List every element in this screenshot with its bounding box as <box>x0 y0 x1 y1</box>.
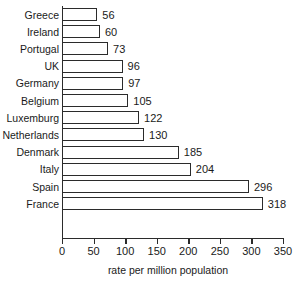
bar-chart: Greece 56 Ireland 60 Portugal 73 UK 96 G… <box>0 0 300 287</box>
bar-row: Italy 204 <box>0 163 300 176</box>
value-label: 96 <box>128 60 140 72</box>
category-label: Portugal <box>20 43 59 55</box>
bar <box>62 197 263 210</box>
bar <box>62 163 191 176</box>
bar-row: Portugal 73 <box>0 42 300 55</box>
bar <box>62 180 249 193</box>
value-label: 130 <box>149 129 167 141</box>
bar <box>62 42 108 55</box>
bar <box>62 94 128 107</box>
bar <box>62 146 179 159</box>
value-label: 73 <box>113 43 125 55</box>
category-label: Italy <box>40 163 59 175</box>
value-label: 318 <box>268 198 286 210</box>
x-axis-tick <box>157 239 158 244</box>
category-label: Greece <box>25 9 59 21</box>
x-axis-tick-label: 50 <box>87 245 99 258</box>
category-label: Spain <box>32 181 59 193</box>
value-label: 60 <box>105 26 117 38</box>
bar-row: Denmark 185 <box>0 146 300 159</box>
bar-row: Ireland 60 <box>0 25 300 38</box>
x-axis-tick <box>220 239 221 244</box>
bar-row: UK 96 <box>0 60 300 73</box>
x-axis-tick-label: 350 <box>274 245 292 258</box>
value-label: 56 <box>102 9 114 21</box>
bar-row: Germany 97 <box>0 77 300 90</box>
value-label: 97 <box>128 77 140 89</box>
x-axis-tick <box>94 239 95 244</box>
category-label: Denmark <box>16 146 59 158</box>
bar-row: Netherlands 130 <box>0 128 300 141</box>
bar-row: Belgium 105 <box>0 94 300 107</box>
bar-row: Luxemburg 122 <box>0 111 300 124</box>
x-axis-title: rate per million population <box>0 264 300 277</box>
category-label: Germany <box>16 77 59 89</box>
bar-row: Greece 56 <box>0 8 300 21</box>
bar <box>62 77 123 90</box>
value-label: 185 <box>184 146 202 158</box>
category-label: Ireland <box>27 26 59 38</box>
category-label: UK <box>44 60 59 72</box>
x-axis-tick <box>251 239 252 244</box>
x-axis-title-text: rate per million population <box>108 264 228 277</box>
category-label: Belgium <box>21 95 59 107</box>
y-axis-line <box>62 6 63 239</box>
category-label: Luxemburg <box>6 112 59 124</box>
bar <box>62 25 100 38</box>
value-label: 296 <box>254 181 272 193</box>
x-axis-tick-label: 100 <box>116 245 134 258</box>
bar <box>62 8 97 21</box>
value-label: 105 <box>133 95 151 107</box>
x-axis-tick-label: 300 <box>242 245 260 258</box>
bar <box>62 60 123 73</box>
value-label: 204 <box>196 163 214 175</box>
x-axis-tick <box>62 239 63 244</box>
x-axis-tick-label: 200 <box>179 245 197 258</box>
bar-row: France 318 <box>0 197 300 210</box>
x-axis-tick-label: 250 <box>211 245 229 258</box>
x-axis-tick-label: 0 <box>59 245 65 258</box>
category-label: Netherlands <box>2 129 59 141</box>
bar <box>62 111 139 124</box>
bar <box>62 128 144 141</box>
bar-row: Spain 296 <box>0 180 300 193</box>
plot-area: Greece 56 Ireland 60 Portugal 73 UK 96 G… <box>0 0 300 287</box>
category-label: France <box>26 198 59 210</box>
x-axis-tick-label: 150 <box>148 245 166 258</box>
value-label: 122 <box>144 112 162 124</box>
x-axis-tick <box>125 239 126 244</box>
x-axis-tick <box>188 239 189 244</box>
x-axis-tick <box>283 239 284 244</box>
